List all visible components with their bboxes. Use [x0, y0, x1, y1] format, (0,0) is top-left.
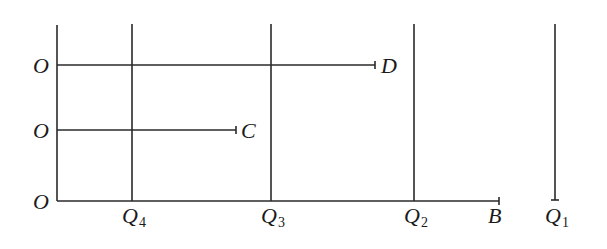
q3-subscript: 3: [278, 215, 285, 230]
q2-label: Q: [404, 203, 420, 228]
endpoint-label-d: D: [380, 53, 397, 78]
q4-subscript: 4: [139, 215, 146, 230]
q3-label: Q: [261, 203, 277, 228]
q1-subscript: 1: [562, 215, 569, 230]
q2-subscript: 2: [421, 215, 428, 230]
origin-label-middle: O: [33, 118, 49, 143]
endpoint-label-b: B: [488, 203, 501, 228]
endpoint-label-c: C: [241, 118, 256, 143]
q1-label: Q: [545, 203, 561, 228]
origin-label-bottom: O: [33, 189, 49, 214]
segment-diagram: O O O D C B Q 4 Q 3 Q 2 Q 1: [0, 0, 607, 249]
q4-label: Q: [122, 203, 138, 228]
origin-label-top: O: [33, 53, 49, 78]
